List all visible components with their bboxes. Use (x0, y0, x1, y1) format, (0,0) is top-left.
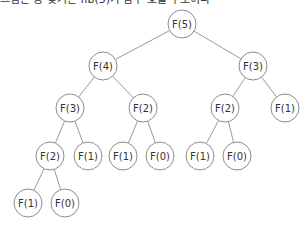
node-label: F(2) (215, 103, 235, 114)
tree-edge (128, 121, 137, 143)
node-label: F(1) (113, 151, 133, 162)
tree-node: F(2) (129, 94, 157, 122)
tree-edge (75, 121, 83, 143)
node-label: F(0) (150, 151, 170, 162)
node-label: F(3) (243, 61, 263, 72)
tree-node: F(5) (168, 10, 196, 38)
tree-node: F(4) (89, 52, 117, 80)
tree-node: F(0) (223, 142, 251, 170)
tree-node: F(2) (36, 142, 64, 170)
tree-node: F(0) (146, 142, 174, 170)
node-label: F(3) (60, 103, 80, 114)
node-label: F(0) (55, 198, 75, 209)
node-label: F(4) (93, 61, 113, 72)
tree-nodes: F(5)F(4)F(3)F(3)F(2)F(2)F(1)F(2)F(1)F(1)… (14, 10, 299, 217)
tree-edge (261, 77, 276, 97)
tree-edge (148, 121, 156, 143)
tree-edge (34, 169, 44, 191)
tree-edge (206, 120, 218, 143)
tree-node: F(1) (271, 94, 299, 122)
tree-edge (54, 169, 60, 189)
tree-edge (79, 77, 95, 97)
node-label: F(1) (18, 198, 38, 209)
tree-edge (113, 76, 134, 98)
tree-edge (115, 31, 169, 60)
node-label: F(2) (40, 151, 60, 162)
tree-node: F(1) (14, 189, 42, 217)
node-label: F(0) (227, 151, 247, 162)
node-label: F(2) (133, 103, 153, 114)
node-label: F(5) (172, 19, 192, 30)
fibonacci-call-tree: F(5)F(4)F(3)F(3)F(2)F(2)F(1)F(2)F(1)F(1)… (0, 0, 308, 229)
tree-edge (194, 31, 241, 59)
tree-edge (228, 122, 233, 143)
node-label: F(1) (78, 151, 98, 162)
tree-edge (55, 121, 64, 143)
tree-node: F(2) (211, 94, 239, 122)
tree-node: F(3) (56, 94, 84, 122)
tree-node: F(1) (74, 142, 102, 170)
tree-node: F(3) (239, 52, 267, 80)
tree-node: F(1) (186, 142, 214, 170)
tree-node: F(1) (109, 142, 137, 170)
tree-node: F(0) (51, 189, 79, 217)
node-label: F(1) (275, 103, 295, 114)
tree-edge (233, 78, 245, 97)
node-label: F(1) (190, 151, 210, 162)
